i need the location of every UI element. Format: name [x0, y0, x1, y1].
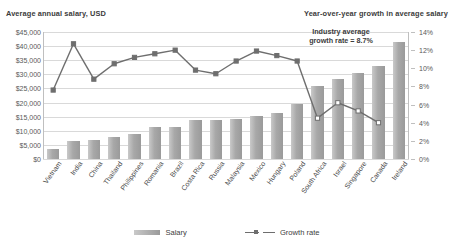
right-axis-tick: 0%	[419, 156, 454, 163]
legend-item-salary: Salary	[134, 228, 187, 237]
left-axis-tick: $0	[1, 156, 41, 163]
left-axis-tick: $30,000	[1, 71, 41, 78]
left-axis-tick: $15,000	[1, 113, 41, 120]
left-axis-tick: $35,000	[1, 57, 41, 64]
right-axis-tickmark	[411, 105, 415, 106]
left-axis-tick: $20,000	[1, 99, 41, 106]
right-axis-tick: 4%	[419, 119, 454, 126]
right-axis-tickmark	[411, 141, 415, 142]
industry-average-annotation: Industry average growth rate = 8.7%	[283, 27, 399, 45]
left-axis-tick: $5,000	[1, 141, 41, 148]
right-axis-tick: 10%	[419, 65, 454, 72]
right-axis-tickmark	[411, 50, 415, 51]
growth-rate-line	[43, 32, 409, 159]
x-axis-labels: VietnamIndiaChinaThailandPhilippinesRoma…	[43, 160, 409, 218]
salary-growth-chart: Average annual salary, USD Year-over-yea…	[0, 0, 454, 247]
clipped-title-strip	[0, 0, 454, 4]
annotation-line-2: growth rate = 8.7%	[283, 36, 399, 45]
right-y-axis: 0%2%4%6%8%10%12%14%	[411, 0, 454, 247]
left-axis-tick: $25,000	[1, 85, 41, 92]
right-axis-tickmark	[411, 32, 415, 33]
annotation-line-1: Industry average	[283, 27, 399, 36]
right-axis-tickmark	[411, 123, 415, 124]
right-axis-tick: 12%	[419, 47, 454, 54]
bar-swatch-icon	[134, 230, 160, 235]
left-axis-tick: $40,000	[1, 43, 41, 50]
right-axis-tick: 2%	[419, 137, 454, 144]
line-swatch-icon	[245, 229, 275, 236]
left-axis-tick: $45,000	[1, 29, 41, 36]
left-axis-tick: $10,000	[1, 127, 41, 134]
right-axis-tickmark	[411, 68, 415, 69]
plot-area	[43, 32, 409, 159]
left-y-axis: $0$5,000$10,000$15,000$20,000$25,000$30,…	[0, 0, 41, 247]
right-axis-tick: 8%	[419, 83, 454, 90]
right-axis-tickmark	[411, 86, 415, 87]
right-axis-tick: 6%	[419, 101, 454, 108]
right-axis-tick: 14%	[419, 29, 454, 36]
legend-label-salary: Salary	[165, 228, 187, 237]
legend-item-growth-rate: Growth rate	[245, 228, 320, 237]
legend-label-growth-rate: Growth rate	[280, 228, 320, 237]
chart-legend: Salary Growth rate	[0, 222, 454, 242]
